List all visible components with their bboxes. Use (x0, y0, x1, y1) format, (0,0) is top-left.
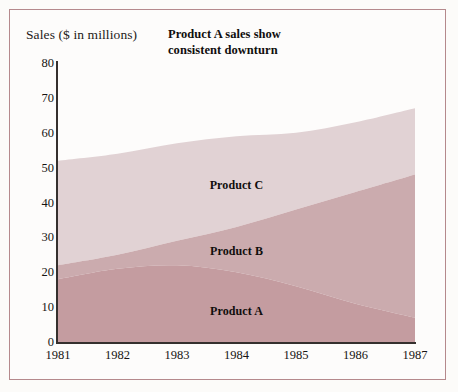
y-tick-label: 60 (8, 125, 54, 140)
series-label-product-b: Product B (210, 244, 263, 259)
x-tick-label: 1986 (343, 348, 368, 363)
stacked-area-svg (58, 63, 415, 342)
x-tick-label: 1984 (224, 348, 249, 363)
chart-title: Product A sales show consistent downturn (168, 26, 281, 58)
plot-area (58, 63, 415, 342)
x-axis-tick-labels: 1981198219831984198519861987 (0, 348, 458, 368)
y-tick-label: 30 (8, 230, 54, 245)
x-tick-label: 1985 (284, 348, 309, 363)
x-tick-label: 1981 (46, 348, 71, 363)
x-axis-line (56, 342, 416, 344)
series-label-product-a: Product A (210, 303, 263, 318)
figure-canvas: Sales ($ in millions) Product A sales sh… (0, 0, 458, 392)
y-tick-label: 10 (8, 300, 54, 315)
x-tick-label: 1982 (105, 348, 130, 363)
y-axis-tick-labels: 01020304050607080 (0, 0, 54, 392)
y-tick-label: 20 (8, 265, 54, 280)
series-label-product-c: Product C (210, 178, 264, 193)
y-tick-label: 50 (8, 160, 54, 175)
x-tick-label: 1983 (165, 348, 190, 363)
x-tick-label: 1987 (403, 348, 428, 363)
y-tick-label: 70 (8, 90, 54, 105)
y-tick-label: 40 (8, 195, 54, 210)
y-tick-label: 80 (8, 56, 54, 71)
